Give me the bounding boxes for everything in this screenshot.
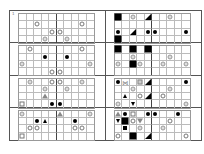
grid-cell	[49, 54, 57, 61]
grid-cell	[49, 133, 57, 140]
grid-cell	[79, 111, 87, 118]
grid-cell	[64, 133, 72, 140]
gray-circle-icon	[88, 61, 93, 66]
grid-cell	[34, 86, 42, 93]
grid-cell	[182, 61, 190, 68]
grid-cell	[27, 61, 35, 68]
gray-circle-icon	[168, 54, 173, 59]
grid-cell	[42, 79, 50, 86]
grid-cell	[130, 125, 138, 132]
grid-cell	[160, 79, 168, 86]
grid-cell	[79, 46, 87, 53]
grid-cell	[42, 46, 50, 53]
grid-cell	[42, 68, 50, 75]
black-square-icon	[129, 46, 136, 53]
grid-cell	[79, 86, 87, 93]
open-square-icon	[20, 101, 25, 106]
grid-cell	[152, 46, 160, 53]
grid-cell	[115, 61, 123, 68]
grid-cell	[115, 93, 123, 100]
grid-cell	[42, 86, 50, 93]
grid-cell	[27, 21, 35, 28]
black-square-icon	[144, 46, 151, 53]
grid-cell	[34, 61, 42, 68]
grid-cell	[152, 86, 160, 93]
grid-cell	[175, 133, 183, 140]
open-triangle-up-icon	[57, 111, 63, 116]
open-circle-icon	[80, 126, 85, 131]
grid-cell	[57, 21, 65, 28]
open-x-icon: ⋈	[122, 79, 128, 84]
grid-cell	[160, 54, 168, 61]
grid-cell	[79, 54, 87, 61]
grid-cell	[57, 111, 65, 118]
open-circle-icon	[138, 94, 143, 99]
open-circle-icon	[35, 22, 40, 27]
grid-cell	[130, 79, 138, 86]
grid-cell	[145, 54, 153, 61]
grid-cell	[137, 61, 145, 68]
grid-cell	[167, 46, 175, 53]
symbol-grid: ⋈	[114, 78, 191, 109]
grid-cell	[57, 46, 65, 53]
grid-cell	[145, 61, 153, 68]
grid-cell	[115, 14, 123, 21]
grid-cell	[115, 54, 123, 61]
grid-cell	[19, 21, 27, 28]
grid-cell	[160, 133, 168, 140]
grid-cell	[182, 36, 190, 43]
grid-cell	[64, 93, 72, 100]
open-triangle-up-icon	[42, 94, 48, 99]
gray-circle-icon	[80, 79, 85, 84]
grid-cell	[87, 54, 95, 61]
grid-cell	[175, 118, 183, 125]
open-circle-icon	[57, 29, 62, 34]
grid-cell	[57, 14, 65, 21]
grid-cell	[122, 14, 130, 21]
grid-cell	[167, 36, 175, 43]
grid-cell	[57, 54, 65, 61]
grid-cell	[42, 133, 50, 140]
grid-cell	[160, 61, 168, 68]
grid-cell	[27, 46, 35, 53]
grid-cell	[79, 68, 87, 75]
grid-cell	[130, 46, 138, 53]
black-dot-icon	[73, 119, 77, 123]
puzzle-panel-r1-left: 1	[10, 11, 106, 43]
gray-circle-icon	[42, 86, 47, 91]
grid-cell	[167, 54, 175, 61]
grid-cell	[152, 68, 160, 75]
grid-cell	[19, 61, 27, 68]
grid-cell	[130, 61, 138, 68]
grid-cell	[27, 79, 35, 86]
grid-cell	[19, 14, 27, 21]
grid-cell	[72, 100, 80, 107]
grid-cell	[87, 21, 95, 28]
grid-cell	[160, 125, 168, 132]
puzzle-panel-r4-left	[10, 108, 106, 140]
grid-cell	[27, 133, 35, 140]
open-triangle-up-icon	[115, 111, 121, 116]
grid-cell	[137, 118, 145, 125]
grid-cell	[49, 29, 57, 36]
grid-cell	[130, 14, 138, 21]
grid-cell	[34, 14, 42, 21]
grid-cell	[137, 29, 145, 36]
gray-circle-icon	[88, 111, 93, 116]
puzzle-panel-r2-right	[106, 43, 202, 75]
grid-cell	[72, 46, 80, 53]
grid-cell	[175, 125, 183, 132]
grid-cell	[72, 93, 80, 100]
grid-cell	[122, 118, 130, 125]
grid-cell	[87, 111, 95, 118]
grid-cell	[87, 100, 95, 107]
grid-cell	[64, 118, 72, 125]
grid-cell	[167, 100, 175, 107]
grid-cell	[160, 86, 168, 93]
grid-cell	[152, 61, 160, 68]
grid-cell	[27, 93, 35, 100]
grid-cell	[64, 36, 72, 43]
symbol-grid	[114, 110, 191, 141]
grid-cell	[72, 29, 80, 36]
grid-cell	[79, 79, 87, 86]
